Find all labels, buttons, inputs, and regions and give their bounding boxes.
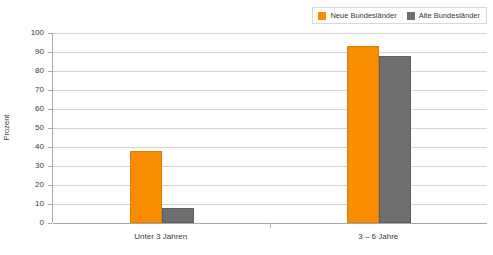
bar-2-2[interactable]	[379, 56, 411, 223]
y-tick-label-10: 10	[0, 199, 44, 208]
gridline-100	[53, 33, 487, 34]
gridline-50	[53, 128, 487, 129]
gridline-90	[53, 52, 487, 53]
gridline-20	[53, 185, 487, 186]
bar-2-1[interactable]	[347, 46, 379, 223]
gridline-30	[53, 166, 487, 167]
x-axis-separator-1	[270, 223, 271, 228]
grey-swatch-icon	[407, 12, 415, 20]
legend-item-neue-bundeslaender[interactable]: Neue Bundesländer	[318, 11, 396, 20]
y-tick-label-60: 60	[0, 104, 44, 113]
bar-1-2[interactable]	[162, 208, 194, 223]
y-tick-label-20: 20	[0, 180, 44, 189]
y-tick-label-80: 80	[0, 66, 44, 75]
x-category-label-2: 3 – 6 Jahre	[298, 232, 458, 241]
gridline-60	[53, 109, 487, 110]
y-tick-mark-0	[48, 223, 52, 224]
x-category-label-1: Unter 3 Jahren	[81, 232, 241, 241]
y-tick-label-30: 30	[0, 161, 44, 170]
y-tick-label-50: 50	[0, 123, 44, 132]
bar-chart: Neue Bundesländer Alte Bundesländer Proz…	[0, 0, 493, 255]
orange-swatch-icon	[318, 12, 326, 20]
gridline-80	[53, 71, 487, 72]
y-tick-label-100: 100	[0, 28, 44, 37]
chart-legend: Neue Bundesländer Alte Bundesländer	[312, 7, 487, 24]
y-tick-label-70: 70	[0, 85, 44, 94]
gridline-70	[53, 90, 487, 91]
plot-area	[52, 33, 487, 223]
y-tick-label-40: 40	[0, 142, 44, 151]
y-tick-label-90: 90	[0, 47, 44, 56]
gridline-10	[53, 204, 487, 205]
legend-label-neue-bundeslaender: Neue Bundesländer	[330, 11, 396, 20]
gridline-40	[53, 147, 487, 148]
legend-item-alte-bundeslaender[interactable]: Alte Bundesländer	[407, 11, 480, 20]
legend-label-alte-bundeslaender: Alte Bundesländer	[419, 11, 480, 20]
bar-1-1[interactable]	[130, 151, 162, 223]
y-tick-label-0: 0	[0, 218, 44, 227]
